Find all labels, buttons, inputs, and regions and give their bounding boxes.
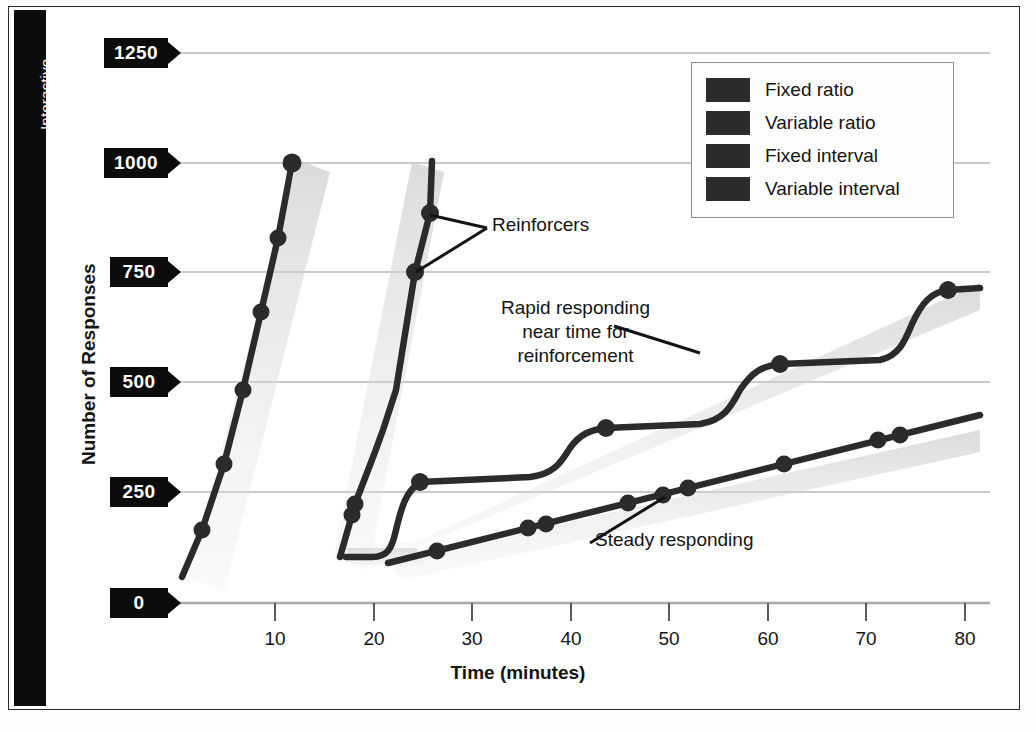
annotation-steady-responding: Steady responding (595, 528, 753, 552)
x-tick-label-70: 70 (841, 628, 891, 650)
legend-item-label: Fixed interval (765, 145, 878, 167)
y-tick-label: 250 (123, 481, 156, 503)
legend-swatch-icon (706, 111, 750, 135)
y-tick-label: 0 (134, 592, 145, 614)
y-tag-arrow-icon (168, 481, 181, 503)
y-tag-arrow-icon (168, 42, 181, 64)
y-tag-arrow-icon (168, 261, 181, 283)
legend-item-fixed-interval[interactable]: Fixed interval (706, 139, 953, 172)
interactive-sidebar-tab[interactable]: Interactive (14, 10, 46, 706)
interactive-tab-label: Interactive (37, 59, 54, 130)
annotation-rapid-responding: Rapid responding near time for reinforce… (468, 296, 683, 368)
legend-item-label: Variable interval (765, 178, 900, 200)
annotation-rapid-line-2: near time for (468, 320, 683, 344)
legend-item-fixed-ratio[interactable]: Fixed ratio (706, 73, 953, 106)
y-tick-500: 500 (110, 367, 181, 397)
y-tick-750: 750 (110, 257, 181, 287)
annotation-rapid-line-1: Rapid responding (468, 296, 683, 320)
x-tick-label-60: 60 (743, 628, 793, 650)
y-axis-title: Number of Responses (78, 263, 100, 465)
x-tick-label-80: 80 (940, 628, 990, 650)
x-tick-label-50: 50 (644, 628, 694, 650)
legend-swatch-icon (706, 78, 750, 102)
x-tick-label-30: 30 (447, 628, 497, 650)
y-tick-1000: 1000 (104, 148, 181, 178)
figure-page: Interactive Number of Responses Time (mi… (0, 0, 1036, 732)
y-tag-arrow-icon (168, 592, 181, 614)
x-tick-label-20: 20 (349, 628, 399, 650)
x-tick-label-40: 40 (546, 628, 596, 650)
x-tick-label-10: 10 (250, 628, 300, 650)
legend-swatch-icon (706, 177, 750, 201)
y-tick-label: 500 (123, 371, 156, 393)
legend-item-label: Variable ratio (765, 112, 876, 134)
legend-item-variable-interval[interactable]: Variable interval (706, 172, 953, 205)
annotation-rapid-line-3: reinforcement (468, 344, 683, 368)
y-tick-0: 0 (110, 588, 181, 618)
legend-item-label: Fixed ratio (765, 79, 854, 101)
y-tick-label: 750 (123, 261, 156, 283)
y-tick-250: 250 (110, 477, 181, 507)
y-tag-arrow-icon (168, 152, 181, 174)
x-axis-title: Time (minutes) (0, 662, 1036, 684)
y-tick-label: 1000 (114, 152, 158, 174)
y-tick-1250: 1250 (104, 38, 181, 68)
y-tick-label: 1250 (114, 42, 158, 64)
chart-legend: Fixed ratio Variable ratio Fixed interva… (691, 62, 954, 218)
annotation-reinforcers: Reinforcers (492, 213, 589, 237)
y-tag-arrow-icon (168, 371, 181, 393)
legend-item-variable-ratio[interactable]: Variable ratio (706, 106, 953, 139)
legend-swatch-icon (706, 144, 750, 168)
